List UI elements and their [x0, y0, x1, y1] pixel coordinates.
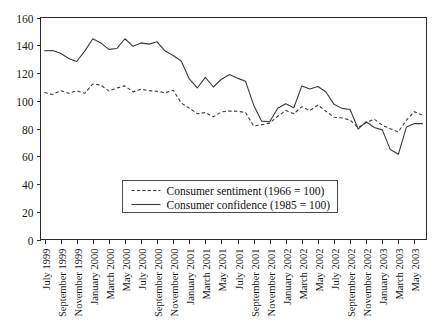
series-line-2 [45, 39, 423, 155]
x-tick-label: March 2001 [201, 249, 212, 300]
x-tick-label: July 2000 [137, 249, 148, 290]
x-tick-label: July 2001 [234, 249, 245, 290]
x-tick-label: May 2002 [314, 249, 325, 292]
y-axis-ticks [37, 19, 41, 241]
y-axis-tick-labels: 020406080100120140160 [16, 13, 34, 247]
x-tick-label: May 2003 [410, 249, 421, 292]
y-tick-label: 140 [16, 40, 34, 52]
x-tick-label: January 2003 [378, 249, 389, 305]
y-tick-label: 120 [16, 68, 34, 80]
y-tick-label: 60 [22, 151, 34, 163]
x-tick-label: July 1999 [41, 249, 52, 290]
x-tick-label: September 2002 [346, 249, 357, 318]
x-tick-label: September 2000 [153, 249, 164, 318]
y-tick-label: 100 [16, 96, 34, 108]
x-axis-tick-labels: July 1999September 1999November 1999Janu… [41, 249, 421, 318]
consumer-indices-line-chart: 020406080100120140160 July 1999September… [0, 0, 448, 336]
data-series-layer [45, 39, 423, 155]
x-tick-label: January 2000 [89, 249, 100, 305]
legend-label: Consumer sentiment (1966 = 100) [167, 185, 325, 198]
x-tick-label: May 2000 [121, 249, 132, 292]
x-tick-label: March 2003 [394, 249, 405, 300]
y-tick-label: 40 [22, 179, 34, 191]
y-tick-label: 80 [22, 124, 34, 136]
x-tick-label: May 2001 [217, 249, 228, 292]
series-line-1 [45, 84, 423, 132]
y-tick-label: 20 [22, 207, 34, 219]
x-tick-label: November 2002 [362, 249, 373, 317]
x-tick-label: November 1999 [73, 249, 84, 317]
x-tick-label: March 2002 [298, 249, 309, 300]
y-tick-label: 0 [28, 235, 34, 247]
x-tick-label: January 2002 [282, 249, 293, 305]
x-tick-label: September 1999 [57, 249, 68, 318]
y-tick-label: 160 [16, 13, 34, 25]
chart-figure: 020406080100120140160 July 1999September… [0, 0, 448, 336]
x-tick-label: July 2002 [330, 249, 341, 290]
x-tick-label: November 2001 [266, 249, 277, 317]
x-tick-label: November 2000 [169, 249, 180, 317]
legend-label: Consumer confidence (1985 = 100) [167, 199, 331, 212]
x-tick-label: January 2001 [185, 249, 196, 305]
x-tick-label: March 2000 [105, 249, 116, 300]
x-axis-ticks [46, 240, 415, 244]
x-tick-label: September 2001 [250, 249, 261, 318]
chart-legend: Consumer sentiment (1966 = 100)Consumer … [123, 181, 338, 213]
